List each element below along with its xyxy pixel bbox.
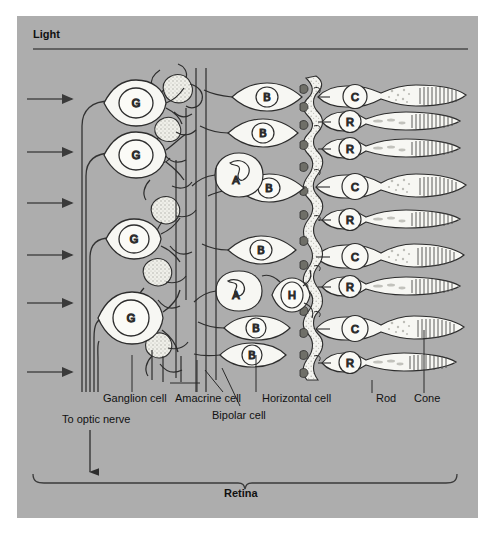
light-label: Light — [33, 28, 60, 40]
amacrine-letter: A — [232, 289, 240, 301]
ganglion-letter: G — [132, 97, 141, 109]
optic-nerve-fiber-bundle — [82, 101, 112, 392]
bipolar-letter: B — [265, 182, 272, 194]
rod-cell: R — [322, 352, 456, 374]
bipolar-cell: B — [194, 343, 286, 367]
amacrine-letter: A — [232, 174, 240, 186]
cone-letter: C — [351, 181, 359, 193]
ganglion-cell-label: Ganglion cell — [103, 392, 167, 404]
cone-letter: C — [351, 323, 359, 335]
rod-cell: R — [322, 276, 460, 298]
bipolar-cell: B — [204, 83, 302, 111]
bipolar-letter: B — [259, 127, 266, 139]
cone-letter: C — [351, 91, 359, 103]
amacrine-cell: A — [192, 153, 263, 197]
cone-cell: C — [316, 174, 466, 200]
bipolar-cell: B — [200, 119, 298, 147]
optic-nerve-label: To optic nerve — [62, 413, 130, 425]
amacrine-cell-label: Amacrine cell — [175, 392, 241, 404]
rod-letter: R — [346, 116, 354, 128]
ganglion-letter: G — [130, 233, 139, 245]
ganglion-letter: G — [127, 312, 136, 324]
figure-page: C R — [0, 0, 495, 538]
rod-cell: R — [322, 138, 460, 160]
bipolar-cell-label: Bipolar cell — [212, 409, 266, 421]
rod-letter: R — [346, 281, 354, 293]
light-arrows — [27, 99, 72, 372]
cone-cell: C — [318, 85, 466, 109]
cone-cell: C — [316, 316, 464, 342]
bipolar-cell: B — [198, 316, 290, 340]
horizontal-cell-label: Horizontal cell — [262, 392, 331, 404]
ganglion-cell: G — [106, 218, 180, 262]
rod-cell: R — [322, 111, 460, 133]
cone-label: Cone — [414, 392, 440, 404]
rod-label: Rod — [376, 392, 396, 404]
bipolar-cells: B B B B — [194, 83, 304, 367]
rod-letter: R — [346, 214, 354, 226]
rod-letter: R — [346, 357, 354, 369]
bipolar-letter: B — [248, 349, 255, 361]
bipolar-letter: B — [252, 322, 259, 334]
ganglion-letter: G — [132, 149, 141, 161]
horizontal-letter: H — [288, 289, 296, 301]
cone-cell: C — [316, 244, 464, 270]
rod-letter: R — [346, 143, 354, 155]
amacrine-cells: A A — [192, 153, 263, 311]
retina-diagram: C R — [0, 0, 495, 538]
amacrine-cell: A — [194, 271, 262, 311]
retina-label: Retina — [224, 487, 259, 499]
photoreceptor-layer: C R — [316, 85, 466, 374]
bipolar-letter: B — [263, 91, 270, 103]
bipolar-letter: B — [257, 244, 264, 256]
cone-letter: C — [351, 251, 359, 263]
rod-cell: R — [322, 209, 460, 231]
